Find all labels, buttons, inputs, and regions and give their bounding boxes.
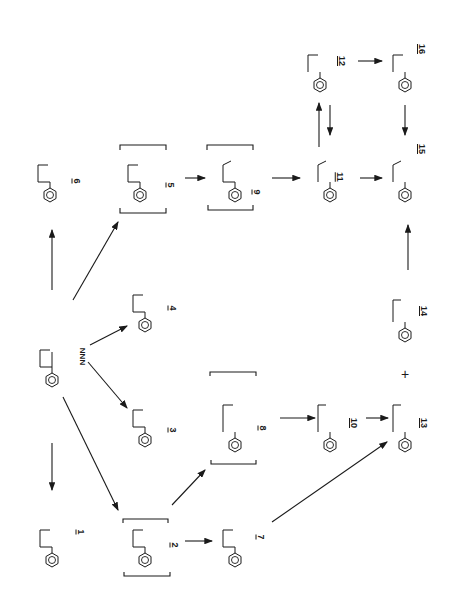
arrow-2-to-8 (172, 470, 205, 505)
molecule-2 (133, 530, 151, 567)
bracket-9-bottom (208, 205, 253, 210)
metabolic-pathway-diagram (0, 0, 453, 599)
label-compound-15: 15 (417, 144, 427, 154)
molecule-10 (318, 405, 336, 452)
molecule-12 (308, 55, 326, 92)
label-compound-16: 16 (417, 44, 427, 54)
molecule-16 (393, 55, 411, 92)
label-compound-1: 1 (76, 529, 86, 534)
label-compound-11: 11 (335, 172, 345, 182)
molecule-14 (393, 300, 411, 342)
molecule-6 (38, 165, 56, 202)
label-compound-9: 9 (252, 189, 262, 194)
label-compound-13: 13 (419, 418, 429, 428)
molecule-1 (40, 530, 58, 567)
label-compound-6: 6 (72, 178, 82, 183)
molecule-nnn (40, 350, 58, 387)
label-nnn: NNN (78, 348, 87, 365)
arrow-nnn-to-4 (90, 326, 127, 345)
bracket-5-top (120, 145, 166, 150)
plus-sign: + (401, 366, 409, 382)
molecule-9 (223, 161, 241, 202)
molecule-5 (128, 165, 146, 202)
arrow-7-to-13 (272, 442, 387, 522)
molecule-11 (318, 161, 336, 202)
bracket-5-bottom (120, 208, 166, 213)
molecule-4 (133, 295, 151, 332)
label-compound-5: 5 (166, 182, 176, 187)
bracket-2-top (123, 519, 168, 523)
label-compound-7: 7 (256, 534, 266, 539)
label-compound-8: 8 (258, 425, 268, 430)
arrow-nnn-to-3 (88, 362, 127, 408)
bracket-2-bottom (124, 572, 170, 576)
molecule-3 (133, 410, 151, 447)
label-compound-10: 10 (349, 418, 359, 428)
label-compound-4: 4 (168, 305, 178, 310)
label-compound-3: 3 (168, 427, 178, 432)
arrow-nnn-to-2 (63, 397, 118, 510)
molecule-7 (223, 530, 241, 567)
molecule-8 (223, 405, 241, 452)
bracket-8-top (210, 372, 256, 376)
molecule-15 (393, 161, 411, 202)
molecule-13 (393, 405, 411, 452)
label-compound-12: 12 (337, 56, 347, 66)
label-compound-14: 14 (419, 306, 429, 316)
bracket-9-top (207, 145, 253, 150)
arrow-nnn-to-5 (73, 222, 118, 300)
label-compound-2: 2 (170, 542, 180, 547)
bracket-8-bottom (211, 460, 256, 464)
